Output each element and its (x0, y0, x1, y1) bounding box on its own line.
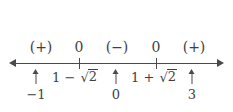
test-point-value-left: −1 (26, 88, 45, 101)
number-line-axis (13, 63, 222, 64)
root-left-radicand: 2 (88, 69, 98, 83)
test-point-arrow-right-icon (188, 69, 197, 84)
test-point-arrow-middle-icon (112, 69, 121, 84)
root-right-lead: 1 + (131, 70, 158, 85)
zero-label-root-right: 0 (152, 40, 161, 54)
root-label-right: 1 + √2 (131, 70, 177, 84)
root-left-lead: 1 − (52, 70, 79, 85)
root-right-radicand: 2 (167, 69, 177, 83)
tick-mark-root-left (79, 58, 80, 69)
sign-label-interval-right: (+) (183, 40, 206, 54)
zero-label-root-left: 0 (75, 40, 84, 54)
sign-label-interval-left: (+) (30, 40, 53, 54)
root-left-radical: √2 (79, 70, 98, 84)
sign-label-interval-middle: (−) (106, 40, 129, 54)
test-point-arrow-left-icon (32, 69, 41, 84)
root-right-radical: √2 (158, 70, 177, 84)
axis-right-arrowhead-icon (217, 59, 224, 67)
test-point-value-right: 3 (188, 88, 196, 101)
test-point-value-middle: 0 (112, 88, 120, 101)
sign-chart-diagram: (+) 0 (−) 0 (+) 1 − √2 1 + √2 −1 0 3 (0, 0, 233, 112)
axis-left-arrowhead-icon (9, 59, 16, 67)
root-label-left: 1 − √2 (52, 70, 98, 84)
tick-mark-root-right (156, 58, 157, 69)
